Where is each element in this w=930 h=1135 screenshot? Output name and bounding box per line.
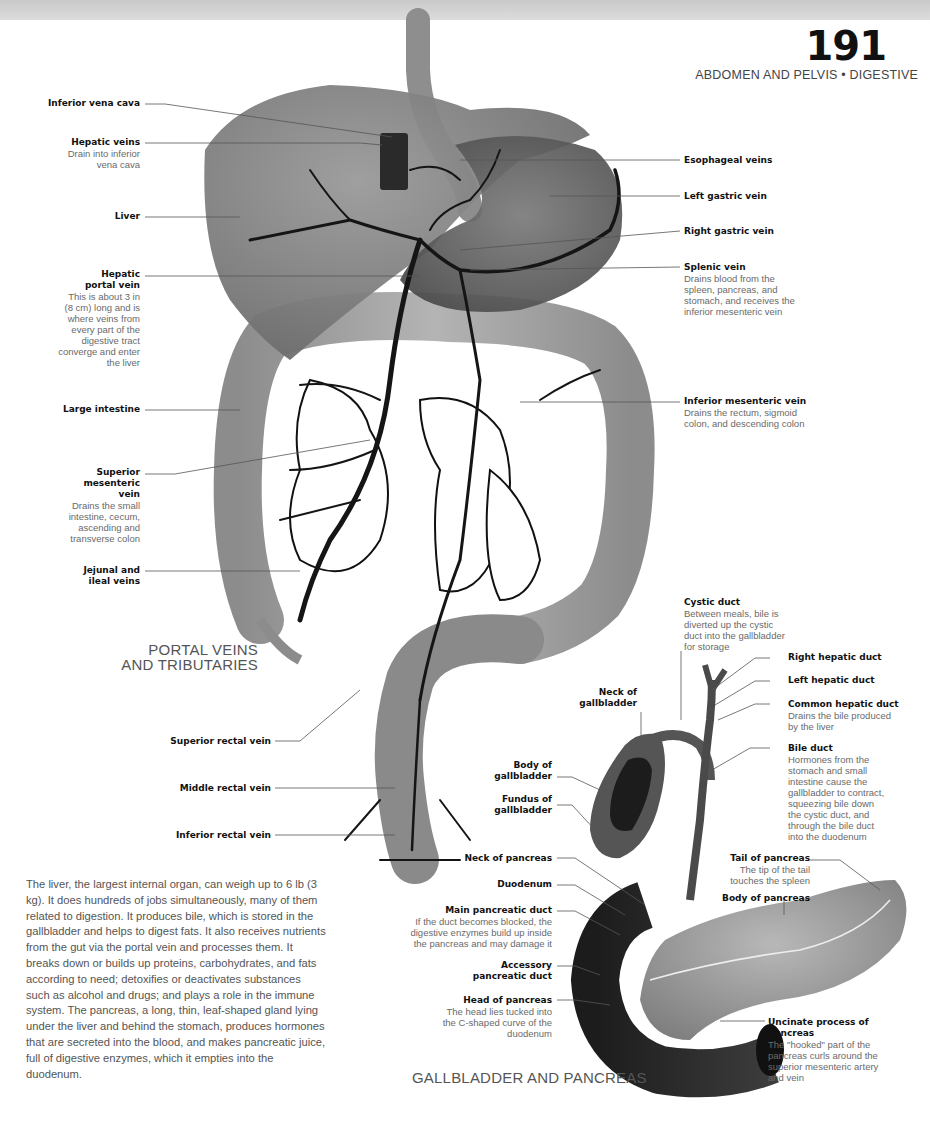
label-neck-of-pancreas: Neck of pancreas [392,853,552,864]
label-body-of-gallbladder: Body of gallbladder [482,760,552,782]
label-common-hepatic-duct: Common hepatic duct Drains the bile prod… [788,699,898,732]
label-splenic-vein: Splenic vein Drains blood from the splee… [684,262,796,317]
label-inferior-vena-cava: Inferior vena cava [0,98,140,109]
label-hepatic-portal-vein: Hepatic portal vein This is about 3 in (… [40,269,140,368]
label-head-of-pancreas: Head of pancreas The head lies tucked in… [442,995,552,1039]
label-right-gastric-vein: Right gastric vein [684,226,884,237]
label-hepatic-veins: Hepatic veins Drain into inferior vena c… [0,137,140,170]
label-tail-of-pancreas: Tail of pancreas The tip of the tail tou… [710,853,810,886]
label-inferior-mesenteric-vein: Inferior mesenteric vein Drains the rect… [684,396,809,429]
label-jejunal-ileal-veins: Jejunal and ileal veins [40,565,140,587]
label-right-hepatic-duct: Right hepatic duct [788,652,928,663]
label-esophageal-veins: Esophageal veins [684,155,884,166]
label-accessory-pancreatic-duct: Accessory pancreatic duct [452,960,552,982]
label-cystic-duct: Cystic duct Between meals, bile is diver… [684,597,790,652]
label-inferior-rectal-vein: Inferior rectal vein [111,830,271,841]
label-liver: Liver [0,211,140,222]
label-large-intestine: Large intestine [0,404,140,415]
label-left-gastric-vein: Left gastric vein [684,191,884,202]
label-uncinate-process: Uncinate process of pancreas The "hooked… [768,1017,888,1083]
label-middle-rectal-vein: Middle rectal vein [111,783,271,794]
gallbladder-pancreas-caption: GALLBLADDER AND PANCREAS [412,1070,647,1085]
label-duodenum: Duodenum [392,879,552,890]
label-bile-duct: Bile duct Hormones from the stomach and … [788,743,888,842]
large-intestine [238,316,631,860]
body-paragraph: The liver, the largest internal organ, c… [26,877,326,1082]
label-superior-mesenteric-vein: Superior mesenteric vein Drains the smal… [40,467,140,544]
label-main-pancreatic-duct: Main pancreatic duct If the duct becomes… [402,905,552,949]
label-fundus-of-gallbladder: Fundus of gallbladder [482,794,552,816]
label-neck-of-gallbladder: Neck of gallbladder [567,687,637,709]
label-left-hepatic-duct: Left hepatic duct [788,675,928,686]
portal-veins-caption: PORTAL VEINS AND TRIBUTARIES [121,642,258,672]
inferior-vena-cava [380,133,408,190]
label-body-of-pancreas: Body of pancreas [700,893,810,904]
label-superior-rectal-vein: Superior rectal vein [111,736,271,747]
